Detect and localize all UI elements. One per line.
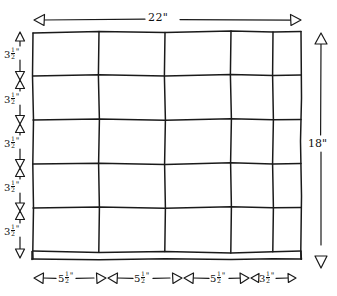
left-dim-3-whole: 3	[4, 138, 10, 149]
bottom-dimension-label-1: 512"	[58, 271, 73, 284]
bottom-arrow-3-left	[184, 273, 194, 284]
grid-vertical-lines	[98, 31, 273, 253]
left-bottom-arrowhead	[16, 249, 25, 258]
bottom-dim-1-whole: 5	[58, 273, 64, 284]
left-top-arrowhead	[16, 32, 25, 41]
left-dimension-label-2: 312"	[4, 92, 19, 105]
right-dimension-label: 18"	[308, 138, 327, 149]
bottom-arrow-1-left	[34, 273, 44, 284]
diagram-canvas: .ink{stroke:#1a1a1a;fill:none;stroke-lin…	[0, 0, 337, 296]
dimension-drawing: .ink{stroke:#1a1a1a;fill:none;stroke-lin…	[0, 0, 337, 296]
bottom-arrow-3-right	[240, 273, 249, 284]
left-hourglass-2	[16, 116, 25, 133]
left-dim-5-fraction: 12	[11, 224, 15, 237]
bottom-dimension-label-4: 312"	[259, 271, 274, 284]
left-dim-4-fraction: 12	[11, 180, 15, 193]
right-bottom-arrowhead	[315, 256, 327, 268]
bottom-dim-2-fraction: 12	[141, 271, 145, 284]
left-dimension-label-3: 312"	[4, 136, 19, 149]
grid-outline	[32, 31, 302, 260]
left-dim-5-whole: 3	[4, 226, 10, 237]
bottom-arrow-2-right	[173, 273, 183, 284]
left-dimension-label-1: 312"	[4, 47, 19, 60]
left-dimension-label-4: 312"	[4, 180, 19, 193]
left-dim-2-unit: "	[16, 92, 20, 101]
bottom-dim-3-unit: "	[222, 271, 226, 280]
left-dimension-label-5: 312"	[4, 224, 19, 237]
left-hourglass-4	[16, 203, 25, 220]
bottom-arrow-1-right	[97, 273, 107, 284]
bottom-dimension-label-2: 512"	[134, 271, 149, 284]
left-dim-3-fraction: 12	[11, 136, 15, 149]
bottom-dim-4-whole: 3	[259, 273, 265, 284]
top-dimension-label: 22"	[148, 12, 168, 23]
bottom-dimension-label-3: 512"	[210, 271, 225, 284]
bottom-dim-3-fraction: 12	[217, 271, 221, 284]
bottom-arrow-4-left	[251, 274, 259, 283]
right-top-arrowhead	[315, 33, 327, 44]
bottom-dim-1-fraction: 12	[65, 271, 69, 284]
bottom-dim-1-unit: "	[70, 271, 74, 280]
left-dim-1-whole: 3	[4, 49, 10, 60]
bottom-dim-4-unit: "	[271, 271, 275, 280]
left-dim-2-fraction: 12	[11, 92, 15, 105]
bottom-dim-2-whole: 5	[134, 273, 140, 284]
left-dim-2-whole: 3	[4, 94, 10, 105]
left-dim-5-unit: "	[16, 224, 20, 233]
bottom-arrow-2-left	[108, 273, 118, 284]
left-dim-4-unit: "	[16, 180, 20, 189]
bottom-dim-2-unit: "	[146, 271, 150, 280]
left-dim-3-unit: "	[16, 136, 20, 145]
top-left-arrowhead	[34, 15, 45, 26]
grid-horizontal-lines	[33, 75, 301, 209]
left-dim-1-fraction: 12	[11, 47, 15, 60]
top-right-arrowhead	[291, 15, 302, 26]
bottom-dim-3-whole: 5	[210, 273, 216, 284]
bottom-arrow-4-right	[288, 274, 296, 283]
left-hourglass-3	[16, 160, 25, 177]
left-dim-1-unit: "	[16, 47, 20, 56]
left-dim-4-whole: 3	[4, 182, 10, 193]
left-hourglass-1	[16, 72, 25, 89]
bottom-dim-4-fraction: 12	[266, 271, 270, 284]
